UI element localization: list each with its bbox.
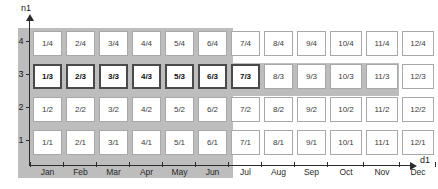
grid-cell[interactable]: 8/3 [264, 64, 293, 89]
grid-cell[interactable]: 8/4 [264, 31, 293, 56]
grid-cell[interactable]: 12/1 [402, 130, 434, 155]
grid-cell[interactable]: 8/2 [264, 97, 293, 122]
grid-cell[interactable]: 7/1 [231, 130, 260, 155]
x-axis-tick-label: Sep [297, 167, 326, 177]
grid-cell[interactable]: 3/1 [99, 130, 128, 155]
grid-cell[interactable]: 9/4 [297, 31, 326, 56]
grid-cell[interactable]: 10/4 [330, 31, 362, 56]
grid-row: 1/32/33/34/35/36/37/38/39/310/311/312/3 [33, 64, 438, 97]
grid-cell[interactable]: 5/3 [165, 64, 194, 89]
grid-cell[interactable]: 5/2 [165, 97, 194, 122]
grid-cell[interactable]: 3/3 [99, 64, 128, 89]
grid-cell[interactable]: 9/1 [297, 130, 326, 155]
cell-grid: 1/42/43/44/45/46/47/48/49/410/411/412/41… [33, 31, 438, 163]
grid-cell[interactable]: 11/4 [366, 31, 398, 56]
grid-row: 1/12/13/14/15/16/17/18/19/110/111/112/1 [33, 130, 438, 163]
grid-cell[interactable]: 5/4 [165, 31, 194, 56]
grid-cell[interactable]: 4/1 [132, 130, 161, 155]
grid-cell[interactable]: 7/2 [231, 97, 260, 122]
y-axis-arrow-icon [26, 14, 34, 21]
grid-cell[interactable]: 1/3 [33, 64, 62, 89]
y-axis-tick-label: 4 [16, 36, 26, 46]
grid-cell[interactable]: 1/2 [33, 97, 62, 122]
grid-cell[interactable]: 9/3 [297, 64, 326, 89]
x-axis-tick-label: Jul [231, 167, 260, 177]
x-axis-tick-label: Aug [264, 167, 293, 177]
grid-cell[interactable]: 6/3 [198, 64, 227, 89]
grid-row: 1/22/23/24/25/26/27/28/29/210/211/212/2 [33, 97, 438, 130]
grid-cell[interactable]: 7/3 [231, 64, 260, 89]
grid-cell[interactable]: 11/1 [366, 130, 398, 155]
grid-cell[interactable]: 3/2 [99, 97, 128, 122]
grid-cell[interactable]: 3/4 [99, 31, 128, 56]
grid-cell[interactable]: 10/3 [330, 64, 362, 89]
x-axis-tick-label: Apr [132, 167, 161, 177]
y-axis-tick [26, 74, 30, 75]
grid-cell[interactable]: 2/1 [66, 130, 95, 155]
y-axis-tick [26, 107, 30, 108]
grid-cell[interactable]: 4/3 [132, 64, 161, 89]
x-axis-tick-label: May [165, 167, 194, 177]
grid-cell[interactable]: 8/1 [264, 130, 293, 155]
grid-cell[interactable]: 5/1 [165, 130, 194, 155]
y-axis-tick-label: 1 [16, 135, 26, 145]
x-axis-tick-label: Mar [99, 167, 128, 177]
grid-cell[interactable]: 4/4 [132, 31, 161, 56]
y-axis-tick-label: 2 [16, 102, 26, 112]
grid-cell[interactable]: 2/4 [66, 31, 95, 56]
grid-cell[interactable]: 11/3 [366, 64, 398, 89]
x-axis-tick [30, 162, 31, 167]
grid-cell[interactable]: 1/1 [33, 130, 62, 155]
x-axis-tick-label: Jan [33, 167, 62, 177]
grid-cell[interactable]: 2/2 [66, 97, 95, 122]
grid-cell[interactable]: 10/2 [330, 97, 362, 122]
diagram-canvas: n1 d1 4321 1/42/43/44/45/46/47/48/49/410… [0, 0, 438, 189]
x-axis-tick-labels: JanFebMarAprMayJunJulAugSepOctNovDec [33, 167, 438, 177]
grid-cell[interactable]: 2/3 [66, 64, 95, 89]
grid-cell[interactable]: 1/4 [33, 31, 62, 56]
x-axis-tick-label: Jun [198, 167, 227, 177]
grid-cell[interactable]: 6/2 [198, 97, 227, 122]
y-axis-tick [26, 41, 30, 42]
y-axis-tick-label: 3 [16, 69, 26, 79]
y-axis-label: n1 [21, 3, 31, 13]
x-axis-tick-label: Feb [66, 167, 95, 177]
x-axis-tick-label: Nov [366, 167, 398, 177]
grid-cell[interactable]: 12/2 [402, 97, 434, 122]
x-axis-line [29, 165, 411, 166]
grid-cell[interactable]: 12/3 [402, 64, 434, 89]
grid-cell[interactable]: 7/4 [231, 31, 260, 56]
y-axis-tick [26, 140, 30, 141]
grid-cell[interactable]: 4/2 [132, 97, 161, 122]
grid-cell[interactable]: 12/4 [402, 31, 434, 56]
grid-row: 1/42/43/44/45/46/47/48/49/410/411/412/4 [33, 31, 438, 64]
grid-cell[interactable]: 9/2 [297, 97, 326, 122]
grid-cell[interactable]: 6/1 [198, 130, 227, 155]
x-axis-tick-label: Dec [402, 167, 434, 177]
x-axis-tick-label: Oct [330, 167, 362, 177]
grid-cell[interactable]: 11/2 [366, 97, 398, 122]
grid-cell[interactable]: 10/1 [330, 130, 362, 155]
grid-cell[interactable]: 6/4 [198, 31, 227, 56]
